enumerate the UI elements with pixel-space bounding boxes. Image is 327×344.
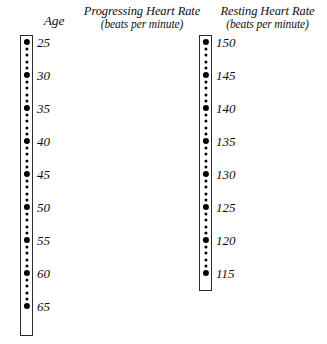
tick-label: 35 bbox=[37, 102, 50, 115]
tick-label: 60 bbox=[37, 267, 50, 280]
scale-title-resting-heart-rate: Resting Heart Rate (beats per minute) bbox=[208, 5, 327, 31]
tick-label: 135 bbox=[216, 135, 236, 148]
tick-label: 140 bbox=[216, 102, 236, 115]
scale-title-age-text: Age bbox=[44, 13, 65, 28]
tick-label: 150 bbox=[216, 36, 236, 49]
tick-label: 40 bbox=[37, 135, 50, 148]
scale-subtitle-resting-text: (beats per minute) bbox=[208, 18, 327, 31]
nomogram-chart: Age 253035404550556065 Progressing Heart… bbox=[0, 0, 327, 344]
tick-label: 145 bbox=[216, 69, 236, 82]
tick-label: 45 bbox=[37, 168, 50, 181]
tick-label: 30 bbox=[37, 69, 50, 82]
scale-title-progressing-text: Progressing Heart Rate bbox=[84, 4, 200, 18]
scale-title-progressing-heart-rate: Progressing Heart Rate (beats per minute… bbox=[76, 5, 208, 31]
tick-label: 120 bbox=[216, 234, 236, 247]
tick-label: 55 bbox=[37, 234, 50, 247]
tick-label: 25 bbox=[37, 36, 50, 49]
scale-subtitle-progressing-text: (beats per minute) bbox=[76, 18, 208, 31]
tick-label: 130 bbox=[216, 168, 236, 181]
scale-title-resting-text: Resting Heart Rate bbox=[220, 4, 314, 18]
tick-label: 125 bbox=[216, 201, 236, 214]
tick-label: 65 bbox=[37, 300, 50, 313]
tick-label: 50 bbox=[37, 201, 50, 214]
tick-label: 115 bbox=[216, 267, 235, 280]
